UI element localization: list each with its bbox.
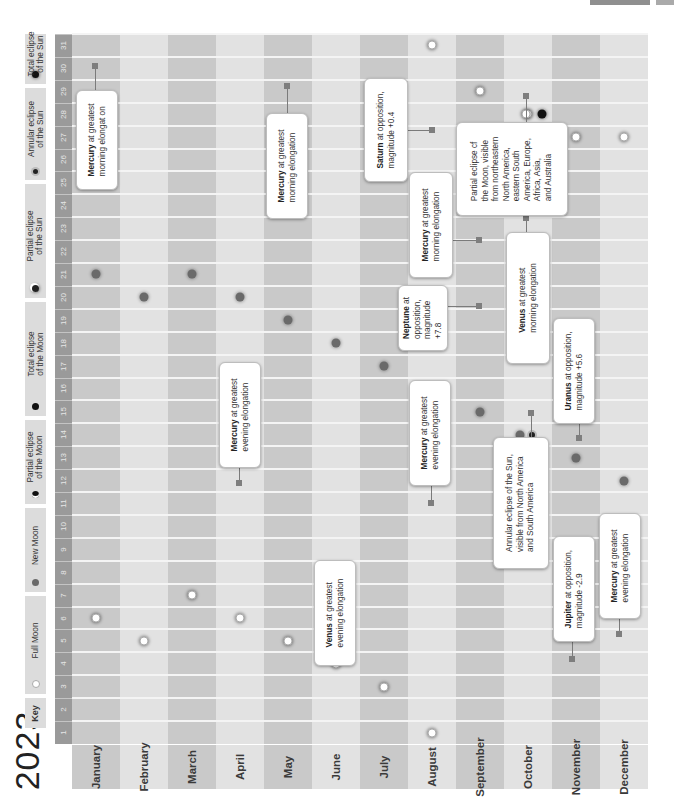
event-text: Mercury at greatestevening elongation bbox=[420, 397, 441, 470]
event-desc-line: the Moon, visible bbox=[481, 140, 490, 201]
event-callout[interactable]: Saturn at opposition,magnitude +0.4 bbox=[364, 78, 408, 182]
full-moon-marker bbox=[140, 636, 149, 645]
event-callout[interactable]: Jupiter at opposition,magnitude -2.9 bbox=[553, 536, 595, 642]
event-desc: at greatest bbox=[277, 130, 286, 171]
event-desc-line: visible from North America bbox=[516, 456, 525, 552]
partial-lunar-eclipse-marker bbox=[538, 110, 547, 119]
callout-pin bbox=[528, 410, 534, 416]
new-moon-marker bbox=[380, 362, 389, 371]
callout-pin bbox=[616, 631, 622, 637]
callout-pin bbox=[429, 127, 435, 133]
new-moon-marker bbox=[620, 476, 629, 485]
event-text: Annular eclipse of the Sun,visible from … bbox=[505, 454, 537, 552]
event-subject: Venus bbox=[325, 623, 334, 647]
new-moon-marker bbox=[188, 270, 197, 279]
callout-connector bbox=[531, 413, 532, 437]
event-desc-line2: evening elongation bbox=[240, 383, 249, 452]
full-moon-marker bbox=[620, 133, 629, 142]
event-subject: Mercury bbox=[277, 171, 286, 203]
chart-overlay: Mercury at greatestmorning elongat onMer… bbox=[0, 0, 676, 807]
event-desc-line2: morning elongation bbox=[431, 192, 440, 262]
event-callout[interactable]: Mercury at greatestmorning elongat on bbox=[76, 90, 118, 190]
event-desc: at opposition, bbox=[564, 331, 573, 382]
event-desc-line2: magnitude -2.9 bbox=[574, 574, 583, 629]
new-moon-marker bbox=[236, 293, 245, 302]
event-callout[interactable]: Partial eclipse cfthe Moon, visiblefrom … bbox=[456, 122, 568, 216]
event-desc: at greatest bbox=[87, 104, 96, 145]
new-moon-marker bbox=[332, 339, 341, 348]
event-callout[interactable]: Mercury at greatestevening elongation bbox=[599, 513, 641, 619]
event-desc-line: opposition, bbox=[413, 299, 422, 339]
event-desc: Partial eclipse cf bbox=[470, 142, 479, 202]
event-subject: Mercury bbox=[87, 145, 96, 177]
full-moon-marker bbox=[428, 41, 437, 50]
event-text: Venus at greatestevening elongation bbox=[325, 579, 346, 648]
callout-pin bbox=[476, 237, 482, 243]
full-moon-marker bbox=[284, 636, 293, 645]
event-callout[interactable]: Mercury at greatestmorning elongation bbox=[266, 113, 308, 219]
event-desc-line: magnitude bbox=[423, 301, 432, 339]
callout-connector bbox=[526, 96, 527, 122]
callout-connector bbox=[287, 86, 288, 113]
event-subject: Mercury bbox=[420, 438, 429, 470]
event-desc-line: America, Europe, bbox=[523, 138, 532, 201]
event-desc-line2: morning elongation bbox=[528, 263, 537, 333]
new-moon-marker bbox=[284, 316, 293, 325]
new-moon-marker bbox=[92, 270, 101, 279]
new-moon-marker bbox=[476, 407, 485, 416]
full-moon-marker bbox=[380, 682, 389, 691]
event-desc-line: North America, bbox=[502, 147, 511, 201]
event-subject: Neptune bbox=[402, 306, 411, 339]
event-desc: at opposition, bbox=[564, 550, 573, 601]
event-text: Mercury at greatestmorning elongat on bbox=[87, 104, 108, 177]
event-callout[interactable]: Venus at greatestmorning elongation bbox=[506, 232, 550, 364]
full-moon-marker bbox=[92, 614, 101, 623]
event-callout[interactable]: Neptune atopposition,magnitude+7.8 bbox=[398, 285, 448, 351]
callout-pin bbox=[523, 93, 529, 99]
event-desc-line2: morning elongation bbox=[287, 133, 296, 203]
event-desc: at greatest bbox=[325, 582, 334, 623]
event-desc: at greatest bbox=[518, 268, 527, 309]
event-subject: Jupiter bbox=[564, 601, 573, 628]
full-moon-marker bbox=[572, 133, 581, 142]
event-text: Partial eclipse cfthe Moon, visiblefrom … bbox=[470, 137, 554, 202]
callout-pin bbox=[428, 500, 434, 506]
event-desc: at greatest bbox=[421, 189, 430, 230]
event-subject: Venus bbox=[518, 309, 527, 333]
event-desc-line: from northeastern bbox=[491, 137, 500, 202]
callout-pin bbox=[576, 435, 582, 441]
event-desc-line: eastern South bbox=[512, 150, 521, 201]
callout-connector bbox=[446, 306, 479, 307]
event-desc-line: and South America bbox=[526, 483, 535, 552]
event-desc-line2: magnitude +0.4 bbox=[386, 112, 395, 169]
event-desc-line2: evening elongation bbox=[335, 579, 344, 648]
new-moon-marker bbox=[572, 453, 581, 462]
full-moon-marker bbox=[476, 87, 485, 96]
callout-pin bbox=[236, 480, 242, 486]
event-desc-line2: evening elongation bbox=[620, 534, 629, 603]
event-text: Mercury at greatestmorning elongation bbox=[277, 130, 298, 203]
callout-connector bbox=[451, 240, 479, 241]
event-text: Uranus at opposition,magnitude +5.6 bbox=[564, 331, 585, 410]
callout-pin bbox=[284, 83, 290, 89]
callout-pin bbox=[569, 656, 575, 662]
event-subject: Mercury bbox=[610, 571, 619, 603]
event-callout[interactable]: Mercury at greatestmorning elongation bbox=[409, 172, 453, 278]
event-desc: Annular eclipse of the Sun, bbox=[505, 454, 514, 552]
callout-pin bbox=[476, 303, 482, 309]
event-text: Mercury at greatestevening elongation bbox=[230, 379, 251, 452]
full-moon-marker bbox=[428, 728, 437, 737]
callout-connector bbox=[95, 66, 96, 90]
event-subject: Mercury bbox=[230, 420, 239, 452]
event-callout[interactable]: Annular eclipse of the Sun,visible from … bbox=[493, 437, 549, 569]
event-callout[interactable]: Venus at greatestevening elongation bbox=[314, 560, 356, 666]
callout-pin bbox=[92, 63, 98, 69]
event-desc-line: Africa, Asia, bbox=[533, 158, 542, 201]
event-callout[interactable]: Uranus at opposition,magnitude +5.6 bbox=[553, 318, 595, 424]
event-text: Jupiter at opposition,magnitude -2.9 bbox=[564, 550, 585, 628]
event-desc-line2: morning elongat on bbox=[97, 106, 106, 176]
event-callout[interactable]: Mercury at greatestevening elongation bbox=[219, 362, 261, 468]
event-text: Saturn at opposition,magnitude +0.4 bbox=[376, 92, 397, 169]
event-desc: at bbox=[402, 297, 411, 306]
event-callout[interactable]: Mercury at greatestevening elongation bbox=[409, 380, 451, 486]
